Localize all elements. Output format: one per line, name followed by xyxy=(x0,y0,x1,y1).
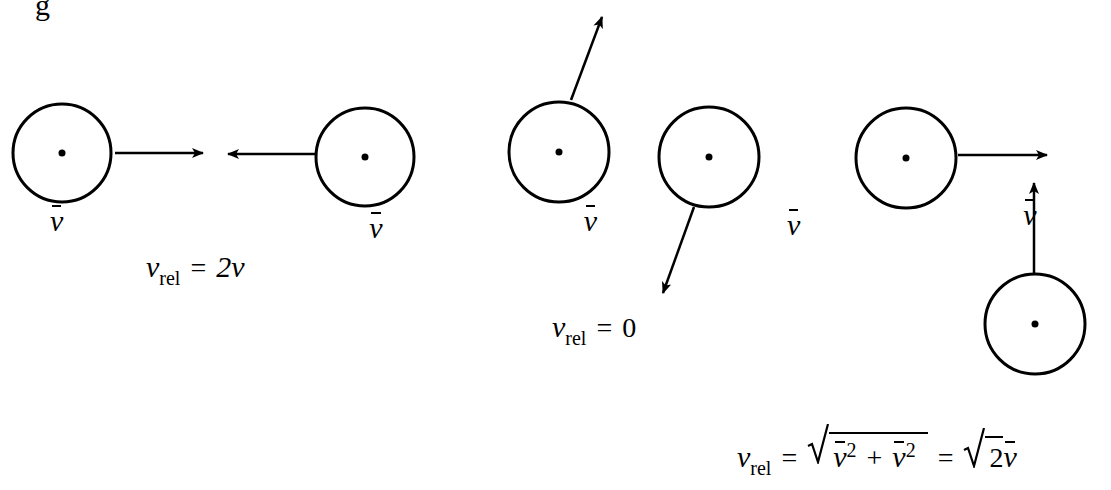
eq-equals: = xyxy=(596,312,612,343)
eq-equals: = xyxy=(190,252,206,283)
velocity-label: v xyxy=(584,206,597,236)
eq-lhs-subscript: rel xyxy=(750,457,771,479)
eq-power: 2 xyxy=(847,439,857,461)
relative-velocity-equation-same-direction: vrel=0 xyxy=(552,312,636,348)
velocity-label: v xyxy=(787,210,800,240)
relative-velocity-equation-head-on: vrel=2v xyxy=(146,252,245,288)
eq-lhs-var: v xyxy=(737,440,750,473)
velocity-arrow xyxy=(571,17,602,100)
particle-center-dot xyxy=(903,155,910,162)
eq-term: v xyxy=(833,442,846,472)
particle-center-dot xyxy=(59,150,66,157)
eq-plus: + xyxy=(867,442,883,473)
particle-center-dot xyxy=(362,154,369,161)
particle-center-dot xyxy=(556,149,563,156)
radical-sign-icon xyxy=(963,428,985,468)
eq-lhs-var: v xyxy=(552,310,565,343)
eq-power: 2 xyxy=(906,439,916,461)
eq-result-var: v xyxy=(1003,442,1016,472)
eq-coef: 2 xyxy=(989,442,1003,473)
velocity-label: v xyxy=(369,213,382,243)
particle-center-dot xyxy=(706,154,713,161)
radicand: 2 xyxy=(985,436,1003,472)
relative-velocity-equation-perpendicular: vrel=v2+v2=2v xyxy=(737,432,1017,478)
eq-equals: = xyxy=(781,442,797,473)
eq-lhs-subscript: rel xyxy=(565,327,586,349)
eq-term: v xyxy=(892,442,905,472)
square-root: v2+v2 xyxy=(807,432,927,472)
radical-sign-icon xyxy=(807,424,829,464)
particle-center-dot xyxy=(1032,321,1039,328)
radicand: v2+v2 xyxy=(829,432,927,472)
eq-lhs-subscript: rel xyxy=(159,267,180,289)
square-root: 2 xyxy=(963,436,1003,472)
velocity-label: v xyxy=(1023,200,1036,230)
eq-rhs: 0 xyxy=(622,312,636,343)
eq-equals: = xyxy=(938,442,954,473)
velocity-arrow xyxy=(663,207,694,293)
velocity-label: v xyxy=(50,206,63,236)
eq-lhs-var: v xyxy=(146,250,159,283)
collision-diagram xyxy=(0,0,1111,490)
eq-rhs: 2v xyxy=(216,250,244,283)
